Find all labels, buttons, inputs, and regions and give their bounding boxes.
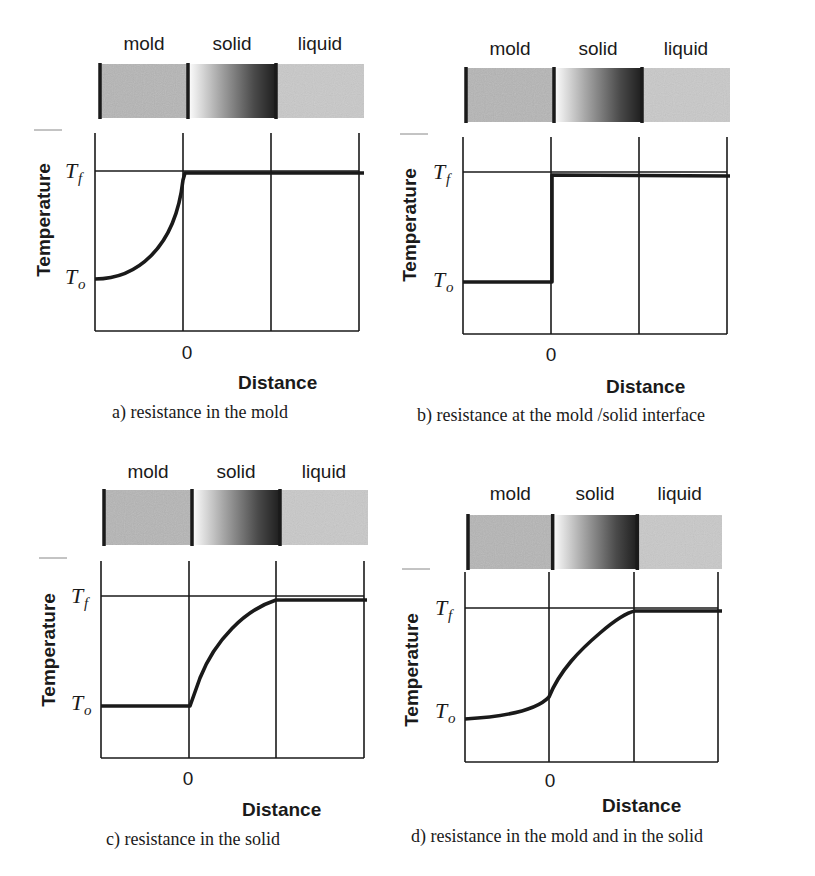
to-subscript: o <box>448 710 456 726</box>
temperature-profile-curve <box>95 173 364 279</box>
x-axis-title: Distance <box>602 795 681 816</box>
liquid-region <box>642 68 730 122</box>
to-label: T <box>71 690 85 715</box>
x-axis-title: Distance <box>606 376 685 397</box>
panel-d: moldsolidliquidTfToTemperature0Distanced… <box>401 483 722 847</box>
tf-label: T <box>71 583 85 608</box>
mold-region <box>100 64 188 118</box>
y-axis-title: Temperature <box>38 593 59 707</box>
temperature-profile-curve <box>101 600 367 706</box>
to-subscript: o <box>84 702 92 718</box>
tf-subscript: f <box>448 607 454 623</box>
plot-area <box>402 569 718 762</box>
plot-area <box>34 130 359 331</box>
y-axis-title: Temperature <box>399 168 420 282</box>
liquid-region <box>276 64 364 118</box>
mold-region <box>104 490 192 545</box>
panel-b: moldsolidliquidTfToTemperature0Distanceb… <box>399 38 730 426</box>
plot-area <box>400 134 727 334</box>
panel-caption: b) resistance at the mold /solid interfa… <box>417 405 705 426</box>
y-axis-title: Temperature <box>401 613 422 727</box>
mold-label: mold <box>489 38 530 59</box>
solid-region <box>554 68 642 122</box>
figure-canvas: moldsolidliquidTfToTemperature0Distancea… <box>0 0 815 876</box>
panel-caption: c) resistance in the solid <box>106 829 280 850</box>
tf-label: T <box>435 595 449 620</box>
plot-area <box>39 558 364 758</box>
liquid-region <box>637 515 722 569</box>
tf-label: T <box>433 159 447 184</box>
y-axis-title: Temperature <box>33 163 54 277</box>
liquid-label: liquid <box>657 483 701 504</box>
mold-region <box>466 68 554 122</box>
panel-caption: d) resistance in the mold and in the sol… <box>411 826 703 847</box>
to-label: T <box>433 267 447 292</box>
x-axis-title: Distance <box>242 799 321 820</box>
tf-subscript: f <box>78 170 84 186</box>
liquid-region <box>280 490 368 545</box>
material-bar <box>466 67 730 123</box>
solid-region <box>192 490 280 545</box>
panel-a: moldsolidliquidTfToTemperature0Distancea… <box>33 33 364 423</box>
to-label: T <box>65 264 79 289</box>
solid-region <box>188 64 276 118</box>
liquid-label: liquid <box>664 38 708 59</box>
liquid-label: liquid <box>302 461 346 482</box>
to-subscript: o <box>446 279 454 295</box>
panel-caption: a) resistance in the mold <box>112 402 288 423</box>
zero-tick-label: 0 <box>546 344 557 365</box>
mold-region <box>468 515 553 569</box>
tf-label: T <box>65 158 79 183</box>
zero-tick-label: 0 <box>545 770 556 791</box>
panel-c: moldsolidliquidTfToTemperature0Distancec… <box>38 461 368 850</box>
zero-tick-label: 0 <box>182 342 193 363</box>
to-label: T <box>435 698 449 723</box>
material-bar <box>468 514 722 570</box>
tf-subscript: f <box>446 171 452 187</box>
liquid-label: liquid <box>298 33 342 54</box>
solid-region <box>553 515 638 569</box>
x-axis-title: Distance <box>238 372 317 393</box>
solid-label: solid <box>578 38 617 59</box>
zero-tick-label: 0 <box>183 768 194 789</box>
temperature-profile-curve <box>465 611 722 719</box>
solid-label: solid <box>575 483 614 504</box>
material-bar <box>104 489 368 546</box>
tf-subscript: f <box>84 595 90 611</box>
to-subscript: o <box>78 276 86 292</box>
solid-label: solid <box>216 461 255 482</box>
mold-label: mold <box>123 33 164 54</box>
solid-label: solid <box>212 33 251 54</box>
temperature-profile-curve <box>463 175 730 282</box>
material-bar <box>100 63 364 119</box>
mold-label: mold <box>127 461 168 482</box>
mold-label: mold <box>490 483 531 504</box>
